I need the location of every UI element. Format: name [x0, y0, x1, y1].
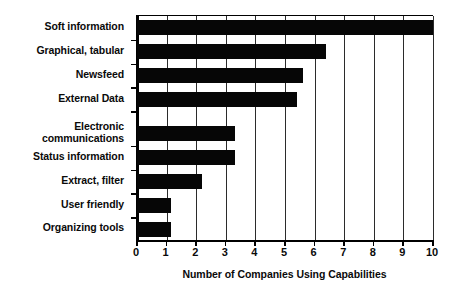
y-tick: [131, 64, 137, 66]
bar: [137, 126, 235, 141]
y-tick: [131, 217, 137, 219]
y-tick: [131, 193, 137, 195]
category-label: Graphical, tabular: [37, 45, 124, 57]
bar: [137, 198, 171, 213]
category-label: Electronic communications: [42, 121, 124, 144]
x-tick-label-9: 9: [391, 246, 413, 258]
category-label: User friendly: [61, 199, 124, 211]
plot-area: [136, 15, 433, 241]
y-tick: [131, 170, 137, 172]
bar-chart: Soft informationGraphical, tabularNewsfe…: [0, 0, 458, 294]
x-axis-title: Number of Companies Using Capabilities: [136, 268, 433, 280]
category-axis-labels: Soft informationGraphical, tabularNewsfe…: [0, 15, 130, 240]
y-tick: [131, 111, 137, 113]
bar: [137, 150, 235, 165]
x-tick-label-3: 3: [214, 246, 236, 258]
category-label: External Data: [58, 93, 124, 105]
category-label: Extract, filter: [61, 175, 124, 187]
category-label: Soft information: [45, 21, 124, 33]
x-tick-label-0: 0: [125, 246, 147, 258]
x-tick-label-2: 2: [184, 246, 206, 258]
bar: [137, 68, 303, 83]
gridline-x-7: [344, 16, 345, 241]
x-tick-label-10: 10: [421, 246, 443, 258]
x-tick-label-4: 4: [243, 246, 265, 258]
gridline-x-10: [433, 16, 434, 241]
gridline-x-8: [374, 16, 375, 241]
x-tick-label-6: 6: [303, 246, 325, 258]
x-tick-label-1: 1: [155, 246, 177, 258]
category-label: Status information: [33, 151, 124, 163]
x-tick-label-7: 7: [332, 246, 354, 258]
y-tick: [131, 146, 137, 148]
y-tick: [131, 40, 137, 42]
category-label: Newsfeed: [76, 69, 124, 81]
x-tick-label-5: 5: [273, 246, 295, 258]
y-tick: [131, 87, 137, 89]
gridline-x-9: [403, 16, 404, 241]
x-tick-label-8: 8: [362, 246, 384, 258]
bar: [137, 44, 326, 59]
bar: [137, 174, 202, 189]
bar: [137, 20, 433, 35]
bar: [137, 92, 297, 107]
category-label: Organizing tools: [43, 222, 124, 234]
bar: [137, 222, 171, 237]
